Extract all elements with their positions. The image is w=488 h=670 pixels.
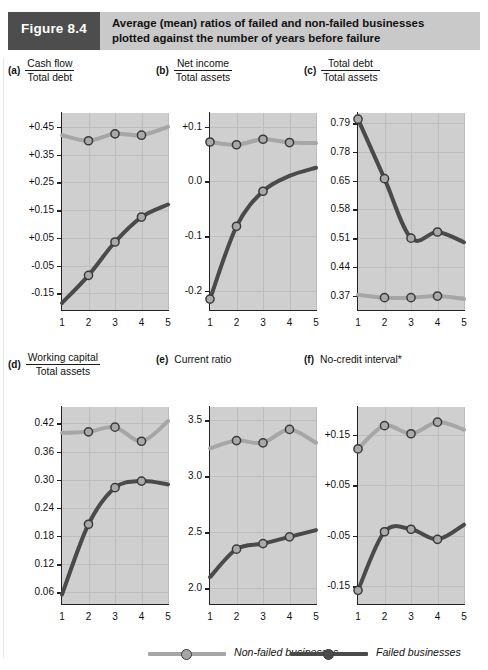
panel-letter: (c) xyxy=(304,65,316,76)
series-line xyxy=(358,119,464,242)
data-point-marker xyxy=(380,294,388,302)
y-axis-tick-label: 2.0 xyxy=(158,582,202,593)
figure-header: Figure 8.4 Average (mean) ratios of fail… xyxy=(8,12,480,50)
y-axis-tick-label: 0.0 xyxy=(158,175,202,186)
data-point-marker xyxy=(137,213,145,221)
x-axis-line xyxy=(61,310,169,311)
panel-heading: (a)Cash flowTotal debt xyxy=(8,58,74,83)
data-point-marker xyxy=(206,138,214,146)
x-axis-line xyxy=(61,604,169,605)
y-axis-tick-label: 0.78 xyxy=(306,146,350,157)
panel-letter: (b) xyxy=(156,65,169,76)
data-point-marker xyxy=(111,423,119,431)
x-axis-tick-label: 3 xyxy=(401,317,421,328)
y-axis-tick-label: +0.35 xyxy=(10,149,54,160)
data-point-marker xyxy=(84,137,92,145)
x-axis-tick-label: 2 xyxy=(375,611,395,622)
y-axis-tick-label: 0.36 xyxy=(10,446,54,457)
plot-region: +0.45+0.35+0.25+0.15+0.05-0.05-0.1512345 xyxy=(62,113,168,310)
fraction-numerator: Total debt xyxy=(321,58,379,71)
y-axis-tick-label: 0.18 xyxy=(10,530,54,541)
y-axis-tick-label: -0.05 xyxy=(10,260,54,271)
data-point-marker xyxy=(259,135,267,143)
chart-panel-d: (d)Working capitalTotal assets0.420.360.… xyxy=(8,352,158,642)
y-axis-tick-label: 0.42 xyxy=(10,417,54,428)
series-line xyxy=(62,205,168,304)
fraction-denominator: Total assets xyxy=(26,365,100,377)
x-axis-tick-label: 5 xyxy=(454,317,474,328)
y-axis-tick-label: -0.2 xyxy=(158,285,202,296)
x-axis-tick-label: 5 xyxy=(454,611,474,622)
data-point-marker xyxy=(111,484,119,492)
chart-panel-b: (b)Net incomeTotal assets+0.10.0-0.1-0.2… xyxy=(156,58,306,348)
panel-title-fraction: Net incomeTotal assets xyxy=(174,58,232,83)
y-axis-tick-label: 0.37 xyxy=(306,290,350,301)
y-axis-tick-label: 3.0 xyxy=(158,470,202,481)
chart-panel-a: (a)Cash flowTotal debt+0.45+0.35+0.25+0.… xyxy=(8,58,158,348)
chart-panel-f: (f)No-credit interval*+0.15+0.05-0.05-0.… xyxy=(304,352,454,642)
plot-region: 3.53.02.52.012345 xyxy=(210,407,316,604)
data-point-marker xyxy=(111,130,119,138)
figure-legend: Non-failed businesses Failed businesses xyxy=(0,645,488,665)
panel-title: No-credit interval* xyxy=(320,354,402,365)
panel-title-fraction: Cash flowTotal debt xyxy=(25,58,74,83)
figure-title-line-2: plotted against the number of years befo… xyxy=(112,31,474,46)
y-axis-tick-label: 0.51 xyxy=(306,232,350,243)
data-point-marker xyxy=(259,439,267,447)
y-axis-tick-label: +0.1 xyxy=(158,121,202,132)
panel-letter: (f) xyxy=(304,354,314,365)
data-point-marker xyxy=(354,445,362,453)
y-axis-tick-label: 0.79 xyxy=(306,117,350,128)
x-axis-tick-label: 3 xyxy=(253,611,273,622)
x-axis-tick-label: 2 xyxy=(227,611,247,622)
data-point-marker xyxy=(285,533,293,541)
y-axis-tick-label: -0.1 xyxy=(158,230,202,241)
data-point-marker xyxy=(232,141,240,149)
fraction-numerator: Cash flow xyxy=(25,58,74,71)
x-axis-line xyxy=(209,310,317,311)
data-point-marker xyxy=(433,535,441,543)
panel-heading: (d)Working capitalTotal assets xyxy=(8,352,100,377)
data-point-marker xyxy=(259,539,267,547)
chart-panel-e: (e)Current ratio3.53.02.52.012345 xyxy=(156,352,306,642)
data-point-marker xyxy=(137,477,145,485)
chart-panel-c: (c)Total debtTotal assets0.790.780.650.5… xyxy=(304,58,454,348)
data-point-marker xyxy=(407,234,415,242)
y-axis-tick-label: +0.25 xyxy=(10,176,54,187)
data-point-marker xyxy=(137,437,145,445)
x-axis-tick-label: 3 xyxy=(401,611,421,622)
fraction-denominator: Total debt xyxy=(25,71,74,83)
data-point-marker xyxy=(259,187,267,195)
y-axis-tick-label: -0.05 xyxy=(306,530,350,541)
x-axis-line xyxy=(357,310,465,311)
data-point-marker xyxy=(111,238,119,246)
y-axis-tick-label: 0.44 xyxy=(306,261,350,272)
data-point-marker xyxy=(84,428,92,436)
data-point-marker xyxy=(380,528,388,536)
y-axis-tick-label: +0.15 xyxy=(306,429,350,440)
data-point-marker xyxy=(380,422,388,430)
data-point-marker xyxy=(206,295,214,303)
data-point-marker xyxy=(232,222,240,230)
y-axis-tick-label: +0.05 xyxy=(10,232,54,243)
x-axis-tick-label: 2 xyxy=(227,317,247,328)
data-point-marker xyxy=(433,418,441,426)
data-point-marker xyxy=(84,520,92,528)
x-axis-tick-label: 1 xyxy=(52,611,72,622)
gridline-vertical xyxy=(464,113,465,310)
panel-letter: (a) xyxy=(8,65,20,76)
legend-marker-icon xyxy=(323,649,334,660)
x-axis-tick-label: 2 xyxy=(79,317,99,328)
x-axis-tick-label: 1 xyxy=(200,317,220,328)
data-point-marker xyxy=(137,131,145,139)
y-axis-tick-label: 0.06 xyxy=(10,586,54,597)
panel-heading: (c)Total debtTotal assets xyxy=(304,58,380,83)
x-axis-tick-label: 1 xyxy=(348,611,368,622)
plot-region: +0.15+0.05-0.05-0.1512345 xyxy=(358,407,464,604)
data-point-marker xyxy=(433,292,441,300)
y-axis-tick-label: 3.5 xyxy=(158,414,202,425)
figure-number-label: Figure 8.4 xyxy=(8,21,100,36)
data-point-marker xyxy=(407,294,415,302)
x-axis-line xyxy=(357,604,465,605)
y-axis-tick-label: +0.45 xyxy=(10,121,54,132)
